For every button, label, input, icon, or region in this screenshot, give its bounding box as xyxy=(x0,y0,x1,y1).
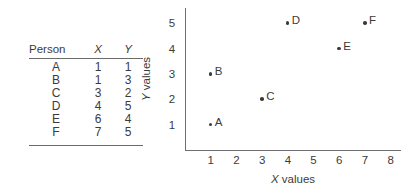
y-axis-line xyxy=(185,8,186,150)
x-tick-label-1: 1 xyxy=(208,154,214,166)
data-point-marker-A xyxy=(209,123,213,127)
data-point-marker-F xyxy=(363,21,367,25)
y-tick-label-2: 2 xyxy=(166,93,178,105)
x-axis-line xyxy=(185,150,401,151)
y-tick-label-1: 1 xyxy=(166,119,178,131)
y-axis-title-variable: Y xyxy=(140,93,152,101)
y-tick-label-4: 4 xyxy=(166,43,178,55)
x-axis-title-variable: X xyxy=(271,173,279,185)
data-point-label-D: D xyxy=(292,15,300,27)
data-point-label-E: E xyxy=(343,41,351,53)
data-point-label-F: F xyxy=(369,15,376,27)
x-tick-label-8: 8 xyxy=(388,154,394,166)
data-point-label-B: B xyxy=(215,66,223,78)
y-tick-label-3: 3 xyxy=(166,68,178,80)
x-tick-label-3: 3 xyxy=(259,154,265,166)
scatterplot-figure: Person X Y A 1 1 B 1 3 C 3 xyxy=(0,0,409,196)
x-axis-title: X values xyxy=(271,173,315,185)
x-axis-title-text: values xyxy=(279,173,315,185)
x-tick-label-6: 6 xyxy=(336,154,342,166)
data-point-label-A: A xyxy=(215,117,223,129)
y-axis-title-text: values xyxy=(140,57,152,93)
data-point-label-C: C xyxy=(266,91,274,103)
y-tick-label-5: 5 xyxy=(166,17,178,29)
data-point-marker-D xyxy=(286,21,290,25)
scatter-plot: 12345678 12345 ABCDEF X values Y values xyxy=(0,0,409,196)
x-tick-label-5: 5 xyxy=(310,154,316,166)
data-point-marker-B xyxy=(209,72,213,76)
x-tick-label-7: 7 xyxy=(362,154,368,166)
x-tick-label-4: 4 xyxy=(285,154,291,166)
data-point-marker-C xyxy=(260,97,264,101)
y-axis-title: Y values xyxy=(140,57,152,101)
x-tick-label-2: 2 xyxy=(233,154,239,166)
data-point-marker-E xyxy=(337,47,341,51)
